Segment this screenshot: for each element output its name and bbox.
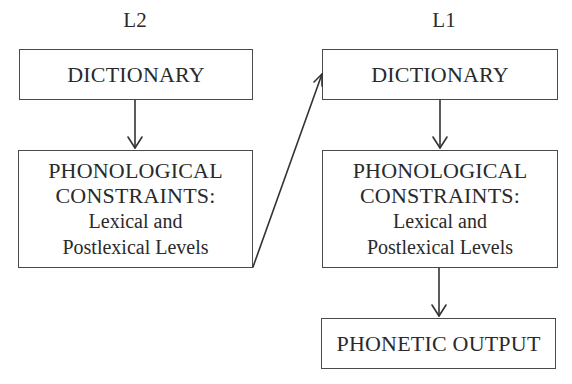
arrow-l1-dictionary-to-constraints [433, 100, 447, 148]
connector-arrows [0, 0, 572, 384]
arrow-l2-dictionary-to-constraints [128, 100, 142, 148]
arrow-l2-constraints-to-l1-dictionary [253, 74, 322, 267]
arrow-l1-constraints-to-output [432, 268, 446, 316]
